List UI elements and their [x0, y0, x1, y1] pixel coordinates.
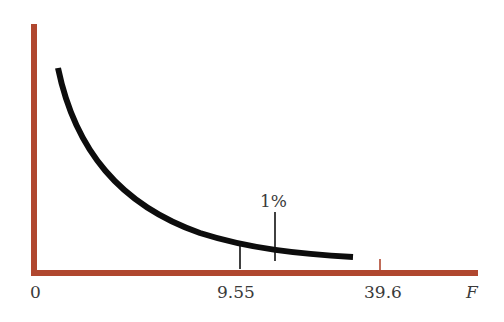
density-curve: [58, 68, 353, 257]
percent-label: 1%: [260, 191, 287, 211]
tick-label-9-55: 9.55: [217, 282, 255, 302]
origin-label: 0: [30, 282, 41, 302]
x-axis-label: F: [465, 282, 479, 302]
tick-label-39-6: 39.6: [364, 282, 402, 302]
f-distribution-chart: 0 9.55 39.6 1% F: [0, 0, 504, 322]
